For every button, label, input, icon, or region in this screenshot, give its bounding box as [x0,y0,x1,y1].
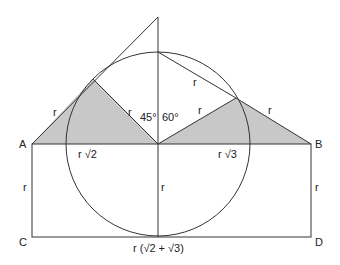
right-side-r-label: r [268,104,272,116]
angle-60-label: 60° [162,111,179,123]
left-height-r-label: r [23,181,27,193]
point-a-label: A [19,138,27,150]
geometry-diagram: A B C D r r r r r 45° 60° r √2 r √3 r r … [0,0,340,265]
point-d-label: D [315,236,323,248]
point-b-label: B [315,138,322,150]
right-radius-r-label: r [198,104,202,116]
angle-45-label: 45° [140,111,157,123]
r-sqrt3-label: r √3 [218,148,237,160]
r-sqrt2-label: r √2 [78,148,97,160]
bottom-length-label: r (√2 + √3) [133,242,184,254]
point-c-label: C [19,236,27,248]
right-height-r-label: r [315,181,319,193]
rectangle-abdc [32,144,311,237]
chord-r-label: r [193,76,197,88]
left-radius-r-label: r [128,106,132,118]
right-shaded-triangle [158,98,311,144]
chord-line [158,52,236,98]
center-height-r-label: r [161,181,165,193]
left-tangent-r-label: r [53,106,57,118]
